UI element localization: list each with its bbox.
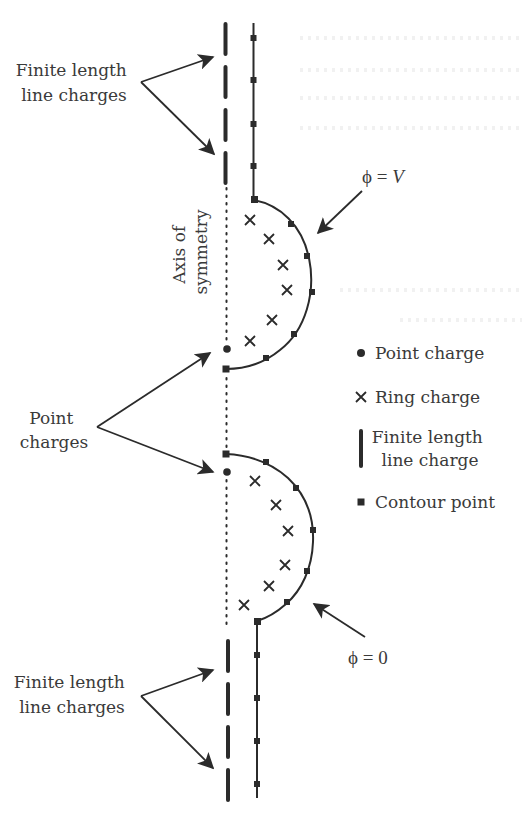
legend-line-charge-label: Finite length line charge	[372, 427, 488, 470]
label-phi-zero: ϕ = 0	[348, 647, 388, 668]
arrow-phi-zero	[314, 604, 365, 637]
label-phi-v: ϕ = V	[362, 166, 406, 187]
charge-simulation-diagram: Finite length line charges Axis of symme…	[0, 0, 522, 821]
ring-charge-cross-icon	[356, 392, 366, 402]
label-axis-of-symmetry: Axis of symmetry	[169, 209, 211, 295]
lower-contour-points	[223, 451, 317, 788]
arrow-bottom-line-charge-2	[141, 696, 213, 768]
lower-ring-charges	[239, 476, 293, 610]
lower-electrode-contour	[223, 451, 317, 799]
arrow-top-line-charge-1	[141, 57, 213, 82]
legend-contour-point-label: Contour point	[375, 492, 495, 512]
arrow-top-line-charge-2	[141, 82, 214, 154]
arrow-phi-v	[318, 191, 362, 233]
legend-point-charge-label: Point charge	[375, 343, 484, 363]
lower-point-charge	[223, 468, 231, 476]
label-top-line-charges: Finite length line charges	[16, 60, 132, 105]
annotation-arrows	[97, 57, 365, 768]
contour-point-square-icon	[358, 499, 365, 506]
legend: Point charge Ring charge Finite length l…	[356, 343, 495, 512]
upper-ring-charges	[245, 215, 292, 346]
arrow-bottom-line-charge-1	[141, 670, 213, 696]
bleed-through-background	[300, 38, 522, 320]
upper-electrode-contour	[223, 23, 316, 373]
legend-ring-charge-label: Ring charge	[375, 387, 480, 407]
upper-point-charge	[223, 345, 231, 353]
arrow-point-charge-1	[97, 353, 210, 427]
arrow-point-charge-2	[97, 427, 213, 472]
point-charge-dot-icon	[357, 349, 365, 357]
label-bottom-line-charges: Finite length line charges	[14, 672, 130, 717]
label-point-charges: Point charges	[20, 408, 88, 452]
